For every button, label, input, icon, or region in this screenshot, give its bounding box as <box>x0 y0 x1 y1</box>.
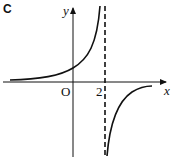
y-axis-label: y <box>63 4 69 17</box>
origin-label: O <box>61 85 70 98</box>
graph-canvas <box>0 0 173 157</box>
curve-right-branch <box>107 86 152 156</box>
x-axis-label: x <box>164 84 170 97</box>
figure-tag: C <box>3 3 12 15</box>
asymptote-tick-label: 2 <box>96 85 103 98</box>
curve-left-branch <box>10 6 100 80</box>
